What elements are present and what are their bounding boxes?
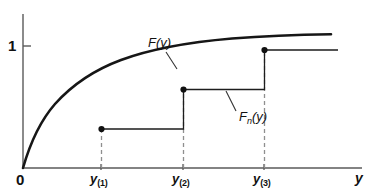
cdf-leader-line	[166, 52, 177, 69]
cdf-label-base: F	[148, 35, 156, 50]
x-tick-label-y1: y(1)	[90, 172, 108, 185]
x-axis-variable-label: y	[355, 171, 363, 185]
x-tick-label-y2: y(2)	[172, 172, 190, 185]
cdf-label: F(y)	[148, 36, 171, 49]
step-dot-y2	[180, 86, 186, 92]
x-tick-label-y3-sub: (3)	[260, 178, 270, 188]
ecdf-label-arg: (y)	[252, 109, 267, 124]
cdf-curve	[23, 34, 331, 168]
x-tick-label-y1-sub: (1)	[97, 178, 107, 188]
ecdf-label-sub: n	[247, 116, 252, 126]
ecdf-leader-line	[226, 91, 236, 111]
plot-svg	[0, 0, 385, 191]
x-tick-label-y3: y(3)	[253, 172, 271, 185]
x-tick-label-y2-sub: (2)	[179, 178, 189, 188]
cdf-label-arg: (y)	[156, 35, 171, 50]
origin-label: 0	[16, 172, 24, 187]
ecdf-label-base: F	[239, 109, 247, 124]
y-tick-label-1: 1	[8, 38, 16, 53]
step-dot-y1	[98, 126, 104, 132]
figure-container: 1 0 y F(y) Fn(y) y(1) y(2) y(3)	[0, 0, 385, 191]
ecdf-label: Fn(y)	[239, 110, 267, 123]
step-dot-y3	[261, 47, 267, 53]
ecdf-step-path	[102, 50, 339, 129]
